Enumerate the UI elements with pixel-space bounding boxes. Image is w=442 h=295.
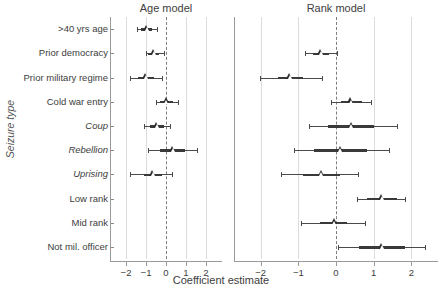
x-tick-mark xyxy=(186,262,187,266)
confidence-interval-cap xyxy=(322,76,323,81)
confidence-interval-cap xyxy=(197,148,198,153)
estimate-marker-inner xyxy=(151,172,155,176)
y-tick-label: Cold war entry xyxy=(47,97,108,107)
confidence-interval-cap xyxy=(331,100,332,105)
gridline xyxy=(374,17,375,259)
estimate-marker-inner xyxy=(144,75,148,79)
zero-reference-line xyxy=(166,17,167,259)
estimate-marker-inner xyxy=(332,221,336,225)
x-tick-mark xyxy=(336,262,337,266)
confidence-interval-cap xyxy=(162,76,163,81)
confidence-interval-cap xyxy=(389,148,390,153)
gridline xyxy=(261,17,262,259)
confidence-interval-cap xyxy=(305,51,306,56)
confidence-interval-cap xyxy=(156,100,157,105)
estimate-marker-inner xyxy=(319,172,323,176)
y-tick-label: Coup xyxy=(85,121,108,131)
estimate-marker-inner xyxy=(152,51,156,55)
estimate-marker-inner xyxy=(145,27,149,31)
estimate-marker-inner xyxy=(288,75,292,79)
confidence-interval-cap xyxy=(365,221,366,226)
estimate-marker-inner xyxy=(155,124,159,128)
confidence-interval-cap xyxy=(164,51,165,56)
coefficient-plot-figure: Seizure type >40 yrs agePrior democracyP… xyxy=(0,0,442,295)
y-axis-spine xyxy=(110,17,111,261)
estimate-marker-inner xyxy=(338,148,342,152)
panel-title-age-model: Age model xyxy=(114,2,218,14)
y-tick-label: Prior democracy xyxy=(39,48,108,58)
confidence-interval-cap xyxy=(144,124,145,129)
y-tick-label: Not mil. officer xyxy=(47,242,108,252)
estimate-marker-inner xyxy=(380,196,384,200)
confidence-interval-cap xyxy=(358,172,359,177)
confidence-interval-cap xyxy=(260,76,261,81)
gridline xyxy=(298,17,299,259)
x-tick-mark xyxy=(126,262,127,266)
confidence-interval-cap xyxy=(148,148,149,153)
panel-age-model xyxy=(114,17,218,259)
gridline xyxy=(206,17,207,259)
estimate-marker-inner xyxy=(171,148,175,152)
x-tick-mark xyxy=(261,262,262,266)
y-tick-label: Mid rank xyxy=(72,218,108,228)
y-tick-label: Low rank xyxy=(69,194,108,204)
confidence-interval-cap xyxy=(157,27,158,32)
x-tick-mark xyxy=(166,262,167,266)
gridline xyxy=(126,17,127,259)
estimate-marker-inner xyxy=(349,124,353,128)
x-axis-title: Coefficient estimate xyxy=(0,274,442,286)
confidence-interval-cap xyxy=(294,148,295,153)
gridline xyxy=(411,17,412,259)
confidence-interval-cap xyxy=(337,51,338,56)
confidence-interval-cap xyxy=(397,124,398,129)
confidence-interval-cap xyxy=(178,100,179,105)
y-tick-label: Uprising xyxy=(73,169,108,179)
confidence-interval-cap xyxy=(357,197,358,202)
x-tick-mark xyxy=(146,262,147,266)
estimate-marker-inner xyxy=(380,245,384,249)
confidence-interval-cap xyxy=(371,100,372,105)
confidence-interval-cap xyxy=(130,172,131,177)
estimate-marker-inner xyxy=(349,100,353,104)
x-tick-mark xyxy=(411,262,412,266)
y-axis-spine xyxy=(234,17,235,261)
confidence-interval-cap xyxy=(172,172,173,177)
y-tick-label: >40 yrs age xyxy=(58,24,108,34)
x-tick-mark xyxy=(206,262,207,266)
estimate-marker-inner xyxy=(164,100,168,104)
confidence-interval-cap xyxy=(281,172,282,177)
confidence-interval-cap xyxy=(301,221,302,226)
panel-rank-model xyxy=(238,17,434,259)
confidence-interval-cap xyxy=(137,27,138,32)
x-tick-mark xyxy=(374,262,375,266)
estimate-marker-inner xyxy=(319,51,323,55)
confidence-interval-cap xyxy=(170,124,171,129)
confidence-interval-cap xyxy=(130,76,131,81)
x-tick-mark xyxy=(298,262,299,266)
confidence-interval-cap xyxy=(309,124,310,129)
y-axis-title: Seizure type xyxy=(4,89,16,169)
confidence-interval-cap xyxy=(405,197,406,202)
confidence-interval-cap xyxy=(425,245,426,250)
y-tick-label: Prior military regime xyxy=(24,73,108,83)
y-tick-label: Rebellion xyxy=(68,145,108,155)
panel-title-rank-model: Rank model xyxy=(238,2,434,14)
confidence-interval-cap xyxy=(146,51,147,56)
gridline xyxy=(186,17,187,259)
confidence-interval-cap xyxy=(338,245,339,250)
